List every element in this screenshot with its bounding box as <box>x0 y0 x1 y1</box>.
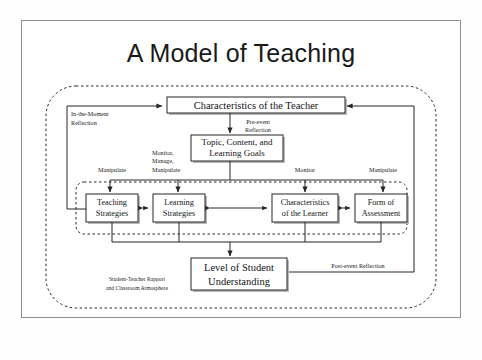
node-label-learning-line2: Strategies <box>163 209 195 218</box>
node-label-understanding-line2: Understanding <box>208 276 271 287</box>
edge-label-manipulate-right: Manipulate <box>369 166 397 173</box>
edge-label-in-the-moment-line2: Reflection <box>71 119 97 126</box>
node-label-teacher: Characteristics of the Teacher <box>194 100 319 111</box>
edge-label-pre-event-line2: Reflection <box>245 126 271 133</box>
edge-label-monitor-manage-line3: Manipulate <box>152 166 180 173</box>
edge-label-monitor: Monitor <box>295 166 315 173</box>
edge-label-manipulate-left: Manipulate <box>98 166 126 173</box>
node-label-learner-line1: Characteristics <box>281 198 330 207</box>
node-label-teaching-line2: Strategies <box>96 209 128 218</box>
node-label-learning-line1: Learning <box>164 198 194 207</box>
node-label-topic-line1: Topic, Content, and <box>202 137 273 147</box>
node-label-topic-line2: Learning Goals <box>209 148 265 158</box>
note-rapport-line2: and Classroom Atmosphere <box>106 285 168 291</box>
edge-label-pre-event-line1: Pre-event <box>246 118 270 125</box>
node-label-assessment-line2: Assessment <box>362 209 401 218</box>
node-label-assessment-line1: Form of <box>368 198 395 207</box>
node-label-understanding-line1: Level of Student <box>204 262 274 273</box>
edge-label-monitor-manage-line2: Manage, <box>152 157 174 164</box>
diagram-canvas: Characteristics of the Teacher Topic, Co… <box>0 0 482 360</box>
edge-label-in-the-moment-line1: In-the-Moment <box>71 110 109 117</box>
node-label-learner-line2: of the Learner <box>282 209 329 218</box>
slide-page: A Model of Teaching Characteristics of t… <box>0 0 482 360</box>
edge-label-monitor-manage-line1: Monitor, <box>152 149 174 156</box>
edge-label-post-event-reflection: Post-event Reflection <box>331 262 384 269</box>
node-label-teaching-line1: Teaching <box>97 198 127 207</box>
post-event-reflection-path <box>289 106 414 272</box>
note-rapport-line1: Student-Teacher Rapport <box>109 276 165 282</box>
